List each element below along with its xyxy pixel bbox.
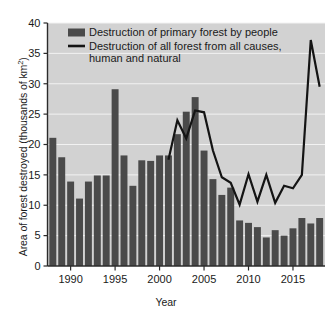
y-tick-label: 15 [28, 169, 40, 181]
x-axis-ticks: 199019952000200520102015 [58, 266, 305, 285]
x-tick-label: 1995 [103, 273, 127, 285]
bar [316, 218, 323, 266]
bar [94, 175, 101, 266]
bar [272, 230, 279, 266]
bar [121, 155, 128, 266]
y-tick-label: 25 [28, 108, 40, 120]
bar [112, 89, 119, 266]
y-axis-ticks: 0510152025303540 [28, 17, 47, 272]
y-tick-label: 0 [34, 260, 40, 272]
y-tick-label: 5 [34, 229, 40, 241]
x-tick-label: 1990 [58, 273, 82, 285]
legend-swatch-bars [68, 29, 85, 37]
bar [138, 160, 145, 266]
bar [245, 223, 252, 266]
legend-label-line-2: human and natural [89, 52, 181, 64]
bar [58, 157, 65, 266]
bar [307, 223, 314, 266]
bar [254, 227, 261, 266]
bar [103, 175, 110, 266]
bar [129, 186, 136, 266]
bar [156, 155, 163, 266]
bar [192, 97, 199, 266]
plot-canvas: 0510152025303540 19901995200020052010201… [0, 0, 332, 317]
y-tick-label: 35 [28, 47, 40, 59]
bar [85, 182, 92, 266]
bar [201, 151, 208, 266]
bar [263, 237, 270, 266]
y-axis-label-text: Area of forest destroyed (thousands of k… [17, 57, 29, 256]
bar [49, 138, 56, 266]
x-tick-label: 2015 [281, 273, 305, 285]
y-tick-label: 20 [28, 138, 40, 150]
bar [298, 218, 305, 266]
bar [290, 228, 297, 266]
bar [281, 236, 288, 266]
legend-label-line-1: Destruction of all forest from all cause… [89, 40, 282, 52]
bar [67, 182, 74, 266]
x-tick-label: 2010 [236, 273, 260, 285]
y-tick-label: 10 [28, 199, 40, 211]
x-tick-label: 2000 [147, 273, 171, 285]
x-tick-label: 2005 [192, 273, 216, 285]
bar [165, 155, 172, 266]
bar [218, 195, 225, 266]
bar [209, 179, 216, 266]
bar [76, 199, 83, 266]
forest-destruction-chart: Area of forest destroyed (thousands of k… [0, 0, 332, 317]
bar [147, 161, 154, 266]
bar [174, 134, 181, 266]
y-tick-label: 30 [28, 78, 40, 90]
x-axis-label: Year [0, 296, 332, 308]
y-axis-label: Area of forest destroyed (thousands of k… [15, 31, 29, 283]
bar [236, 220, 243, 266]
bar [227, 188, 234, 266]
legend-label-bars: Destruction of primary forest by people [89, 26, 278, 38]
y-tick-label: 40 [28, 17, 40, 29]
